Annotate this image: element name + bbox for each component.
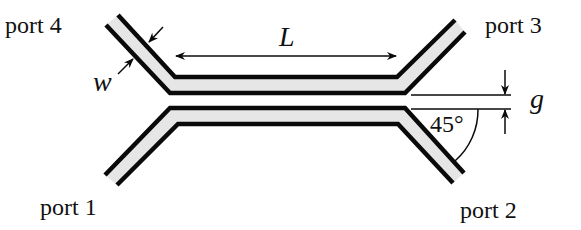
- length-label: L: [278, 21, 295, 52]
- port-3-label: port 3: [485, 12, 542, 38]
- angle-label: 45°: [430, 111, 464, 137]
- port-2-label: port 2: [460, 197, 517, 223]
- lower-strip-outer-edge: [117, 124, 453, 185]
- lower-strip: [105, 108, 464, 185]
- gap-label: g: [530, 83, 544, 114]
- width-label: w: [93, 66, 112, 97]
- width-arrow-upper: [149, 27, 163, 42]
- port-1-label: port 1: [40, 194, 97, 220]
- width-arrow-lower: [118, 59, 133, 74]
- coupled-line-diagram: port 4 port 3 port 1 port 2 L w g 45°: [0, 0, 581, 230]
- port-4-label: port 4: [5, 12, 62, 38]
